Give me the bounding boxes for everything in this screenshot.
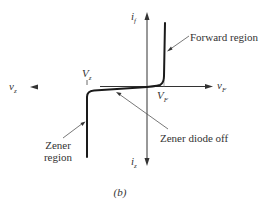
arrow-icon (167, 47, 173, 52)
zener-region-leader (63, 123, 83, 138)
forward-region-label: Forward region (190, 31, 259, 43)
vz-marker-label: Vz (82, 67, 92, 82)
current-axis (145, 12, 150, 166)
zener-off-label: Zener diode off (160, 132, 229, 144)
figure-caption: (b) (114, 186, 127, 199)
vf-axis-label: vF (217, 79, 227, 94)
zener-region-label-line2: region (44, 151, 73, 163)
iv-curve (87, 23, 165, 157)
zener-diode-iv-characteristic: if iz vF vz Vz VF Forward region Zener d… (0, 0, 273, 209)
vz-axis-label: vz (9, 80, 17, 95)
arrow-down-icon (145, 158, 150, 166)
voltage-axis-negative (30, 85, 74, 90)
iz-axis-label: iz (131, 155, 137, 170)
arrow-left-icon (30, 85, 38, 90)
zener-region-label-line1: Zener (45, 139, 71, 151)
vf-marker-label: VF (157, 89, 169, 104)
arrow-right-icon (205, 84, 213, 89)
if-axis-label: if (131, 10, 137, 25)
arrow-icon (81, 122, 86, 127)
arrow-up-icon (145, 12, 150, 20)
forward-region-leader (169, 36, 189, 50)
